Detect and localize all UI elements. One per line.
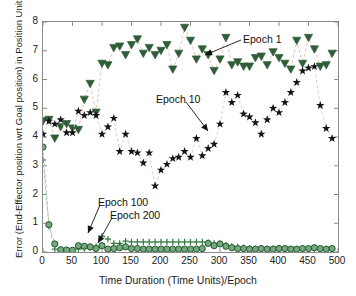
data-point	[198, 151, 206, 159]
data-point	[304, 34, 312, 41]
data-point	[193, 239, 199, 245]
data-point	[123, 244, 129, 250]
data-point	[252, 246, 258, 252]
data-point	[328, 50, 336, 57]
data-point	[99, 243, 105, 249]
plot-area	[42, 21, 339, 253]
data-point	[151, 181, 159, 189]
data-point	[288, 246, 294, 252]
data-point	[158, 239, 164, 245]
data-point	[51, 135, 59, 142]
data-point	[121, 130, 129, 138]
data-point	[204, 52, 212, 59]
data-point	[145, 148, 153, 156]
data-point	[235, 245, 241, 251]
data-point	[211, 243, 217, 249]
data-point	[222, 34, 230, 41]
data-point	[210, 67, 218, 74]
x-tick-100: 100	[89, 255, 113, 266]
data-point	[169, 66, 177, 73]
data-point	[305, 245, 311, 251]
data-point	[223, 243, 229, 249]
data-point	[299, 60, 307, 67]
data-point	[75, 243, 81, 249]
data-point	[199, 239, 205, 245]
data-point	[269, 104, 277, 112]
data-point	[110, 114, 118, 122]
data-point	[229, 245, 235, 251]
data-point	[300, 245, 306, 251]
data-point	[216, 56, 224, 63]
data-point	[111, 245, 117, 251]
data-point	[146, 239, 152, 245]
data-point	[182, 246, 188, 252]
data-point	[311, 245, 317, 251]
data-point	[276, 245, 282, 251]
data-point	[186, 37, 194, 44]
data-point	[270, 246, 276, 252]
data-point	[263, 62, 271, 69]
data-point	[140, 239, 146, 245]
data-point	[275, 108, 283, 116]
data-point	[157, 166, 165, 174]
data-point	[199, 245, 205, 251]
annotation-label: Epoch 100	[98, 196, 148, 208]
data-point	[158, 246, 164, 252]
data-point	[43, 144, 46, 150]
data-point	[204, 144, 212, 152]
data-point	[175, 153, 183, 161]
annotation-label: Epoch 200	[110, 209, 160, 221]
data-point	[104, 62, 112, 69]
data-point	[175, 50, 183, 57]
data-point	[216, 120, 224, 128]
annotation-label: Epoch 10	[156, 93, 200, 105]
data-point	[134, 245, 140, 251]
series-epoch-100	[43, 157, 335, 252]
data-point	[152, 239, 158, 245]
data-point	[222, 88, 230, 96]
data-point	[99, 233, 105, 239]
plot-canvas	[43, 22, 338, 252]
data-point	[170, 246, 176, 252]
data-point	[105, 236, 111, 242]
data-point	[43, 130, 47, 138]
x-tick-350: 350	[237, 255, 261, 266]
data-point	[217, 241, 223, 247]
data-point	[310, 46, 318, 53]
data-point	[51, 120, 59, 128]
y-axis-label: Error (End-Effector position wrt Goal po…	[13, 0, 24, 258]
data-point	[241, 245, 247, 251]
series-epoch-1	[43, 24, 336, 142]
data-point	[293, 78, 301, 86]
data-point	[176, 239, 182, 245]
data-point	[64, 247, 70, 252]
data-point	[329, 245, 335, 251]
data-point	[86, 80, 94, 87]
data-point	[263, 115, 271, 123]
data-point	[205, 240, 211, 246]
data-point	[187, 239, 193, 245]
x-tick-50: 50	[60, 255, 84, 266]
x-tick-200: 200	[148, 255, 172, 266]
data-point	[62, 128, 70, 136]
data-point	[74, 107, 82, 115]
data-point	[193, 246, 199, 252]
data-point	[176, 246, 182, 252]
series-line	[43, 160, 332, 251]
data-point	[139, 50, 147, 57]
x-axis-label: Time Duration (Time Units)/Epoch	[0, 274, 356, 286]
data-point	[128, 245, 134, 251]
data-point	[187, 246, 193, 252]
data-point	[164, 246, 170, 252]
data-point	[323, 246, 329, 252]
data-point	[287, 88, 295, 96]
data-point	[298, 66, 306, 74]
data-point	[117, 245, 123, 251]
data-point	[146, 246, 152, 252]
data-point	[182, 239, 188, 245]
data-point	[246, 246, 252, 252]
x-tick-400: 400	[266, 255, 290, 266]
data-point	[74, 126, 82, 133]
data-point	[234, 91, 242, 99]
data-point	[46, 222, 52, 228]
